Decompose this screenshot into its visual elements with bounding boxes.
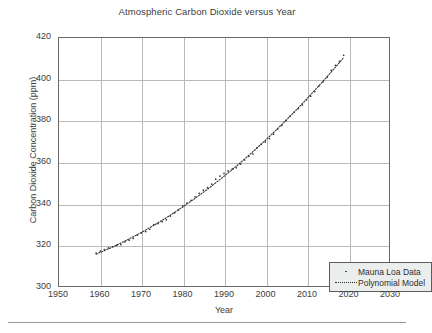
data-point <box>198 192 200 194</box>
data-point <box>194 196 196 198</box>
data-point <box>161 221 163 223</box>
data-point <box>99 250 101 252</box>
data-point <box>314 91 316 93</box>
data-point <box>128 239 130 241</box>
data-point <box>108 247 110 249</box>
x-axis-tick-labels: 195019601970198019902000201020202030 <box>58 289 390 305</box>
data-point <box>149 228 151 230</box>
chart-title: Atmospheric Carbon Dioxide versus Year <box>0 6 414 17</box>
data-point <box>174 212 176 214</box>
data-point <box>219 175 221 177</box>
x-tick-label: 2030 <box>368 289 412 299</box>
data-point <box>132 238 134 240</box>
data-point <box>264 141 266 143</box>
data-point <box>207 187 209 189</box>
x-tick-label: 1960 <box>78 289 122 299</box>
x-axis-title: Year <box>58 305 390 315</box>
chart-legend: Mauna Loa Data Polynomial Model <box>329 262 432 292</box>
data-point <box>248 155 250 157</box>
data-point <box>112 246 114 248</box>
data-point <box>120 244 122 246</box>
data-point <box>289 116 291 118</box>
data-point <box>306 99 308 101</box>
data-point <box>182 205 184 207</box>
plot-area: Mauna Loa Data Polynomial Model <box>58 37 390 287</box>
footer-divider <box>8 322 406 323</box>
dot-marker-icon <box>334 271 358 273</box>
data-point <box>190 199 192 201</box>
data-point <box>293 112 295 114</box>
legend-item-mauna-loa-data: Mauna Loa Data <box>334 266 425 277</box>
data-point <box>256 147 258 149</box>
y-tick-label: 360 <box>3 156 51 166</box>
data-point <box>302 104 304 106</box>
x-tick-label: 1950 <box>36 289 80 299</box>
data-point <box>223 173 225 175</box>
data-point <box>227 170 229 172</box>
polynomial-model-line <box>96 58 344 255</box>
data-point <box>236 167 238 169</box>
x-tick-label: 1980 <box>161 289 205 299</box>
data-point <box>116 245 118 247</box>
data-point <box>273 133 275 135</box>
data-point <box>124 241 126 243</box>
data-point <box>95 252 97 254</box>
data-point <box>178 209 180 211</box>
data-point <box>335 65 337 67</box>
y-axis-tick-labels: 300320340360380400420 <box>0 37 54 287</box>
data-layer <box>59 38 389 286</box>
y-tick-label: 340 <box>3 198 51 208</box>
legend-label-mauna-loa-data: Mauna Loa Data <box>358 267 421 277</box>
data-point <box>277 128 279 130</box>
data-point <box>141 232 143 234</box>
data-point <box>260 144 262 146</box>
data-point <box>285 120 287 122</box>
x-tick-label: 2010 <box>285 289 329 299</box>
data-point <box>330 69 332 71</box>
data-point <box>297 108 299 110</box>
data-point <box>170 215 172 217</box>
data-point <box>215 178 217 180</box>
data-point <box>252 153 254 155</box>
data-point <box>145 231 147 233</box>
data-point <box>326 76 328 78</box>
data-point <box>281 125 283 127</box>
mauna-loa-data-points <box>95 54 344 253</box>
dotted-line-marker-icon <box>334 282 358 283</box>
y-tick-label: 320 <box>3 239 51 249</box>
data-point <box>269 138 271 140</box>
data-point <box>186 202 188 204</box>
x-tick-label: 1970 <box>119 289 163 299</box>
y-tick-label: 420 <box>3 31 51 41</box>
legend-item-polynomial-model: Polynomial Model <box>334 277 425 288</box>
data-point <box>157 223 159 225</box>
data-point <box>318 85 320 87</box>
data-point <box>137 234 139 236</box>
data-point <box>339 60 341 62</box>
x-tick-label: 1990 <box>202 289 246 299</box>
x-tick-label: 2000 <box>244 289 288 299</box>
data-point <box>240 163 242 165</box>
data-point <box>231 168 233 170</box>
data-point <box>104 249 106 251</box>
data-point <box>310 95 312 97</box>
data-point <box>165 219 167 221</box>
data-point <box>153 224 155 226</box>
data-point <box>244 159 246 161</box>
y-axis-title: Carbon Dioxide Concentration (ppm) <box>28 25 38 275</box>
x-tick-label: 2020 <box>327 289 371 299</box>
data-point <box>203 189 205 191</box>
data-point <box>343 54 345 56</box>
data-point <box>322 81 324 83</box>
data-point <box>211 183 213 185</box>
legend-label-polynomial-model: Polynomial Model <box>358 278 425 288</box>
y-tick-label: 380 <box>3 114 51 124</box>
y-tick-label: 400 <box>3 73 51 83</box>
